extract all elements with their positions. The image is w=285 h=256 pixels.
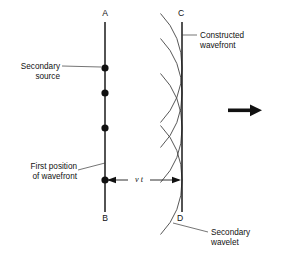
secondary-source-label-line2: source <box>35 72 60 81</box>
secondary-source-leader-line <box>62 66 101 67</box>
vt-arrowhead-right <box>172 177 181 183</box>
secondary-wavelet-label-line2: wavelet <box>210 238 239 247</box>
propagation-direction-arrow <box>228 104 262 116</box>
diagram-canvas: A B C D Secondary source First position … <box>0 0 285 256</box>
first-position-label-line2: of wavefront <box>32 172 77 181</box>
propagation-arrow-shaft <box>228 109 252 113</box>
secondary-source-dot <box>101 64 108 71</box>
secondary-wavelet-arcs <box>161 14 183 235</box>
first-position-label-line1: First position <box>31 162 78 171</box>
constructed-wavefront-label-line2: wavefront <box>199 41 236 50</box>
label-point-a: A <box>102 8 108 18</box>
secondary-source-label-line1: Secondary <box>21 62 61 71</box>
label-point-c: C <box>178 8 184 18</box>
wavelet-arc-3 <box>161 74 183 183</box>
secondary-wavelet-label-line1: Secondary <box>211 228 251 237</box>
label-point-b: B <box>102 213 108 223</box>
vt-dimension: v t <box>107 172 181 185</box>
first-position-leader-line <box>78 163 105 170</box>
secondary-source-dot <box>101 124 108 131</box>
secondary-source-dot <box>101 89 108 96</box>
label-point-d: D <box>177 213 183 223</box>
secondary-wavelet-leader-line <box>173 223 208 232</box>
vt-arrowhead-left <box>107 177 116 183</box>
vt-label: v t <box>135 175 144 184</box>
constructed-wavefront-label-line1: Constructed <box>200 31 245 40</box>
huygens-principle-figure: A B C D Secondary source First position … <box>0 0 285 256</box>
propagation-arrow-head <box>250 104 262 116</box>
